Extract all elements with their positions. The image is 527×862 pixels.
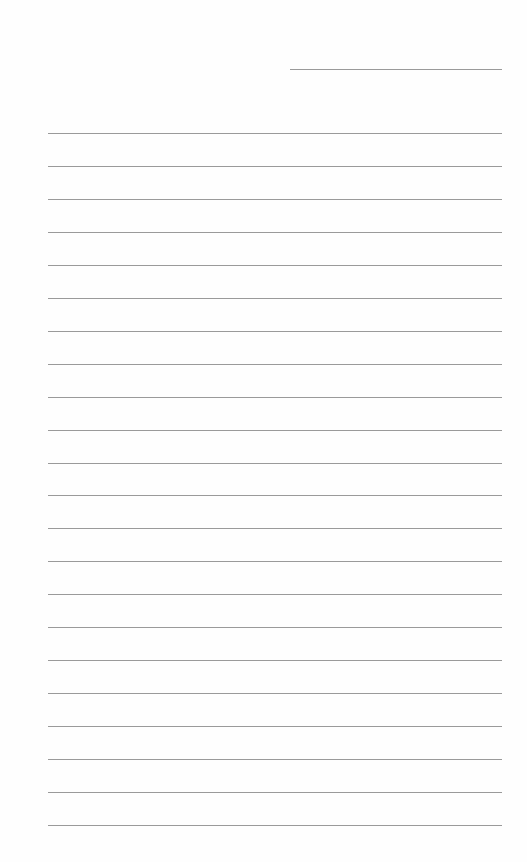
ruled-line bbox=[48, 232, 502, 233]
ruled-line bbox=[48, 726, 502, 727]
ruled-line bbox=[48, 265, 502, 266]
ruled-line bbox=[48, 430, 502, 431]
ruled-line bbox=[48, 561, 502, 562]
ruled-line bbox=[48, 364, 502, 365]
ruled-line bbox=[48, 693, 502, 694]
ruled-line bbox=[48, 594, 502, 595]
ruled-line bbox=[48, 759, 502, 760]
ruled-line bbox=[48, 495, 502, 496]
ruled-line bbox=[48, 463, 502, 464]
ruled-line bbox=[48, 199, 502, 200]
ruled-line bbox=[48, 792, 502, 793]
ruled-line bbox=[48, 660, 502, 661]
ruled-line bbox=[48, 166, 502, 167]
ruled-line bbox=[48, 331, 502, 332]
ruled-line bbox=[48, 825, 502, 826]
ruled-line bbox=[48, 298, 502, 299]
header-line bbox=[290, 69, 502, 70]
ruled-line bbox=[48, 627, 502, 628]
ruled-line bbox=[48, 133, 502, 134]
ruled-line bbox=[48, 397, 502, 398]
lined-page bbox=[0, 0, 527, 862]
ruled-line bbox=[48, 528, 502, 529]
